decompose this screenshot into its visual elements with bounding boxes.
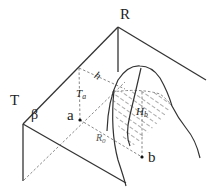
label-Hb-main: H: [136, 105, 144, 117]
label-Hb: Hb: [136, 106, 148, 119]
edge-R-right: [118, 27, 206, 80]
diagram-canvas: R T β a b h Ta Hb R0: [0, 0, 223, 192]
label-R: R: [120, 7, 130, 22]
label-beta: β: [31, 108, 38, 122]
label-Ta: Ta: [76, 88, 86, 101]
point-a: [78, 118, 81, 121]
label-T: T: [10, 93, 19, 108]
label-Hb-sub: b: [144, 110, 148, 119]
label-R0: R0: [96, 133, 106, 145]
label-R0-sub: 0: [102, 137, 106, 145]
geometry-svg: [0, 0, 223, 192]
edge-T-bottom: [23, 124, 126, 183]
dashed-diagonal: [24, 82, 125, 180]
label-b: b: [148, 150, 156, 165]
point-b: [140, 155, 143, 158]
label-a: a: [67, 108, 74, 123]
label-Ta-sub: a: [82, 92, 86, 101]
